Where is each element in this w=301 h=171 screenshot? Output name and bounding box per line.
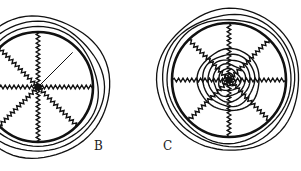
web-hub [35, 84, 42, 91]
web-diagram [0, 0, 301, 171]
zigzag-radius [227, 23, 231, 78]
zigzag-radius [231, 78, 286, 82]
zigzag-radius [36, 32, 40, 85]
zigzag-radius [38, 89, 77, 127]
zigzag-radius [0, 87, 36, 126]
web-panel-c [157, 8, 299, 150]
zigzag-radius [0, 85, 36, 89]
diagram-stage: B C [0, 0, 301, 171]
zigzag-radius [40, 85, 93, 89]
panel-label-b: B [94, 140, 103, 152]
zigzag-radius [36, 89, 40, 142]
web-panel-b [0, 16, 110, 158]
zigzag-radius [0, 47, 38, 85]
web-hub [226, 77, 233, 84]
straight-radius [38, 52, 73, 87]
panel-label-c: C [163, 140, 172, 152]
